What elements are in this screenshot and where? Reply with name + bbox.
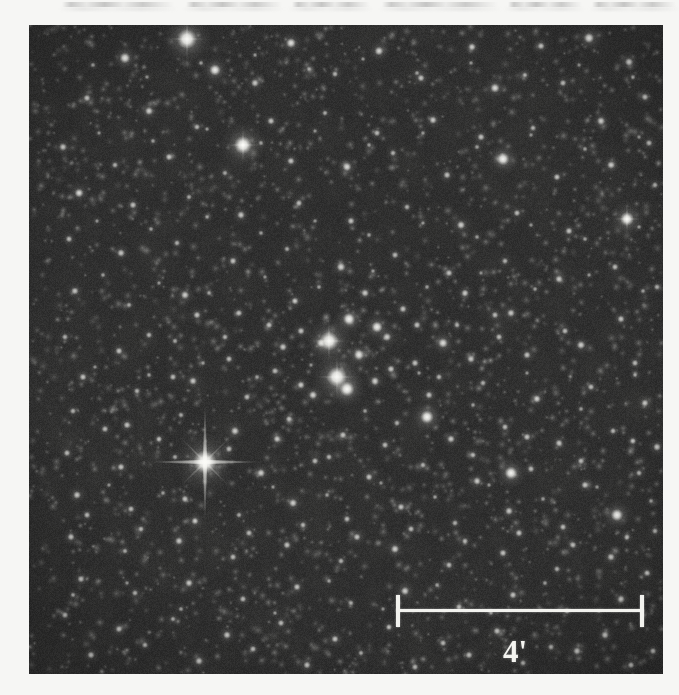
star-field-plate: 4' xyxy=(29,25,663,674)
scale-bar-label: 4' xyxy=(503,636,527,667)
figure-page: 4' xyxy=(0,0,679,695)
star-field-canvas xyxy=(29,25,663,674)
scan-text-artifact xyxy=(0,0,679,13)
